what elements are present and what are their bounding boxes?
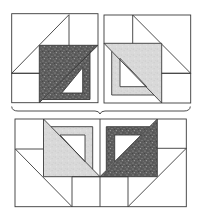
block-background	[15, 119, 186, 207]
top-right-block	[104, 15, 191, 103]
top-left-block	[12, 14, 98, 103]
quilt-diagram	[0, 0, 200, 222]
bottom-block	[15, 119, 186, 207]
joining-brace	[12, 107, 191, 115]
